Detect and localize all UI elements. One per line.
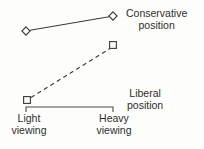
series-line-liberal [31,49,110,98]
x-tick-label-heavy-line2: viewing [88,125,140,137]
marker-square-light-viewing [24,97,31,104]
series-label-conservative-line1: Conservative [126,7,187,19]
series-label-liberal-line2: position [127,100,163,112]
x-tick-label-light-line1: Light [18,112,41,124]
series-label-liberal-line1: Liberal [129,87,161,99]
series-line-conservative [30,17,109,31]
marker-square-heavy-viewing [110,42,117,49]
series-label-conservative-line2: position [126,20,187,32]
marker-diamond-heavy-viewing [109,12,117,20]
x-tick-label-light-line2: viewing [7,125,51,137]
chart-figure: Conservative position Liberal position L… [0,0,204,149]
x-tick-label-heavy-viewing: Heavy viewing [88,113,140,136]
x-tick-label-light-viewing: Light viewing [7,113,51,136]
series-label-conservative: Conservative position [126,8,187,31]
x-tick-label-heavy-line1: Heavy [99,112,129,124]
marker-diamond-light-viewing [22,27,30,35]
series-label-liberal: Liberal position [127,88,163,111]
